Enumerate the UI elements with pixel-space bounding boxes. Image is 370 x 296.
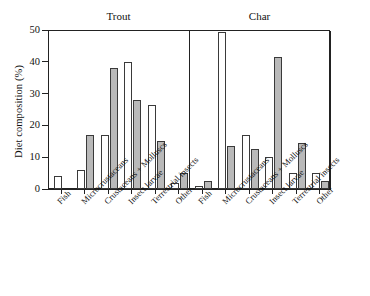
bar-char-microcrustaceans-open [218,32,226,189]
y-tick-label: 20 [14,120,40,130]
y-tick-label: 50 [14,25,40,35]
x-category-label: Fish [55,188,73,206]
x-category-label: Fish [196,188,214,206]
panel-title-trout: Trout [48,10,189,22]
y-tick-label: 30 [14,89,40,99]
y-tick-label: 40 [14,57,40,67]
y-tick-label: 10 [14,152,40,162]
bar-char-fish-filled [204,181,212,189]
y-axis-title: Diet composition (%) [13,32,24,192]
bar-char-microcrustaceans-filled [227,146,235,189]
bar-trout-fish-open [54,176,62,189]
bar-trout-microcrustaceans-open [77,170,85,189]
bar-trout-microcrustaceans-filled [86,135,94,189]
panel-title-char: Char [189,10,330,22]
chart-figure: Diet composition (%) 01020304050 TroutCh… [0,0,370,296]
y-tick-label: 0 [14,184,40,194]
